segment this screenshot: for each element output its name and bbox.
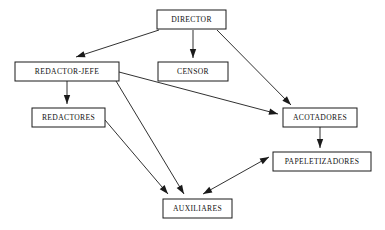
- edge-line: [105, 120, 168, 194]
- node-director[interactable]: DIRECTOR: [157, 10, 226, 29]
- node-acotadores[interactable]: ACOTADORES: [283, 108, 357, 127]
- arrowhead-icon: [190, 49, 196, 58]
- edge-line: [203, 157, 269, 194]
- arrowhead-icon: [76, 51, 86, 57]
- edge-director-to-redactor-jefe: [76, 30, 159, 57]
- node-papeletizadores[interactable]: PAPELETIZADORES: [273, 152, 371, 171]
- node-label-acotadores: ACOTADORES: [293, 113, 347, 122]
- node-label-auxiliares: AUXILIARES: [173, 204, 222, 213]
- edge-redactor-jefe-to-redactores: [64, 81, 70, 104]
- node-label-censor: CENSOR: [177, 67, 210, 76]
- edge-papeletizadores-auxiliares: [203, 157, 269, 194]
- edge-redactores-to-auxiliares: [105, 120, 168, 194]
- arrowhead-icon: [64, 95, 70, 104]
- edge-director-to-censor: [190, 30, 196, 58]
- node-censor[interactable]: CENSOR: [158, 62, 228, 81]
- node-redactor-jefe[interactable]: REDACTOR-JEFE: [15, 62, 119, 81]
- arrowhead-icon: [317, 139, 323, 148]
- diagram-canvas: DIRECTORREDACTOR-JEFECENSORREDACTORESACO…: [0, 0, 385, 230]
- arrowhead-icon: [203, 187, 212, 194]
- edge-redactor-jefe-to-auxiliares: [116, 81, 184, 194]
- node-label-redactor-jefe: REDACTOR-JEFE: [35, 67, 99, 76]
- node-label-redactores: REDACTORES: [42, 113, 95, 122]
- edge-line: [76, 30, 159, 57]
- node-label-director: DIRECTOR: [171, 15, 212, 24]
- node-redactores[interactable]: REDACTORES: [32, 108, 105, 127]
- node-label-papeletizadores: PAPELETIZADORES: [285, 157, 360, 166]
- edge-acotadores-to-papeletizadores: [317, 127, 323, 148]
- arrowhead-icon: [260, 157, 269, 164]
- arrowhead-icon: [177, 185, 184, 194]
- edge-line: [116, 81, 184, 194]
- organization-diagram: DIRECTORREDACTOR-JEFECENSORREDACTORESACO…: [0, 0, 385, 230]
- arrowhead-icon: [268, 109, 278, 115]
- node-auxiliares[interactable]: AUXILIARES: [163, 199, 232, 218]
